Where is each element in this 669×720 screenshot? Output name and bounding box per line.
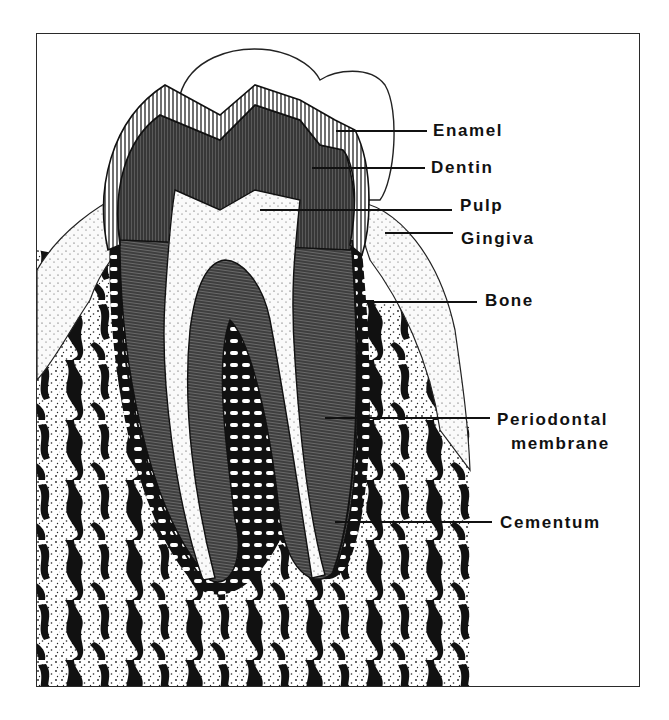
label-gingiva: Gingiva <box>461 230 535 247</box>
illustration-body <box>37 49 470 686</box>
label-enamel: Enamel <box>433 122 503 139</box>
label-periodontal: Periodontal <box>497 411 608 428</box>
label-cementum: Cementum <box>500 514 601 531</box>
tooth-illustration <box>0 0 669 720</box>
label-bone: Bone <box>485 292 534 309</box>
label-dentin: Dentin <box>431 159 493 176</box>
label-pulp: Pulp <box>460 197 503 214</box>
label-membrane: membrane <box>511 435 610 452</box>
